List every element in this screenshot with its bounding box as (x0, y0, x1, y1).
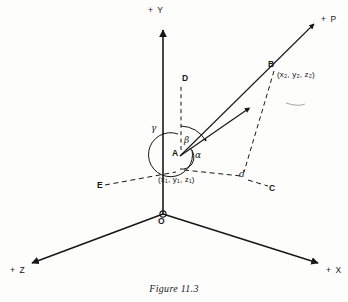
point-label-e: E (97, 181, 103, 190)
scan-artifact-mark (286, 103, 305, 105)
point-label-foot-d: d (239, 170, 245, 179)
x-axis-line (163, 214, 318, 263)
point-label-a: A (172, 149, 179, 158)
figure-caption: Figure 11.3 (0, 283, 348, 294)
point-coord-b: (x₂, y₂, z₂) (277, 71, 315, 79)
angle-label-alpha: α (195, 151, 201, 160)
line-foot-c-dashed (248, 180, 268, 186)
point-label-d: D (182, 74, 189, 83)
vector-ab-arrow (180, 109, 248, 156)
z-axis-line (32, 214, 163, 263)
axis-label-x: + X (326, 266, 342, 275)
origin-label: O (158, 217, 165, 226)
point-coord-a: (x₁, y₁, z₁) (158, 176, 195, 184)
angle-label-beta: β (184, 136, 190, 145)
point-label-c: C (269, 184, 276, 193)
axis-label-z: + Z (10, 266, 26, 275)
axis-label-y: + Y (148, 6, 164, 15)
axis-label-p: + P (321, 15, 337, 24)
point-label-b: B (268, 60, 275, 69)
angle-label-gamma: γ (151, 124, 157, 133)
line-b-foot-dashed (244, 71, 274, 172)
figure-container: + Y + P + X + Z O B (x₂, y₂, z₂) A (x₁, … (0, 0, 348, 302)
ray-p-line (180, 24, 314, 156)
